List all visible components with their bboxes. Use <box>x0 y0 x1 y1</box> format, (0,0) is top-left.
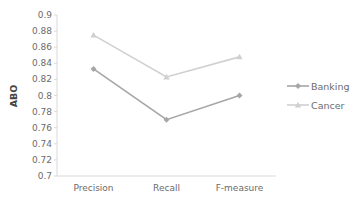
legend-item-cancer: Cancer <box>287 100 345 111</box>
y-tick-label: 0.72 <box>32 155 52 165</box>
legend-label: Cancer <box>311 100 345 111</box>
y-tick-label: 0.7 <box>38 171 52 181</box>
series-line <box>94 35 240 77</box>
y-tick-label: 0.82 <box>32 74 52 84</box>
y-tick-label: 0.78 <box>32 107 52 117</box>
legend-diamond-icon <box>295 83 301 89</box>
triangle-marker-icon <box>90 32 96 38</box>
y-axis-label: ABO <box>8 85 19 108</box>
y-tick-label: 0.74 <box>32 139 52 149</box>
y-tick-label: 0.76 <box>32 123 52 133</box>
y-tick-label: 0.86 <box>32 42 52 52</box>
axes <box>57 15 276 176</box>
legend-label: Banking <box>311 81 350 92</box>
series-lines <box>90 32 242 123</box>
y-tick-label: 0.9 <box>38 10 53 20</box>
legend-item-banking: Banking <box>287 81 350 92</box>
legend: BankingCancer <box>287 81 350 111</box>
series-cancer <box>90 32 242 79</box>
x-category-label: F-measure <box>216 183 264 193</box>
x-category-label: Recall <box>153 183 180 193</box>
y-tick-label: 0.84 <box>32 58 52 68</box>
x-ticks: PrecisionRecallF-measure <box>73 183 263 193</box>
triangle-marker-icon <box>236 54 242 60</box>
x-category-label: Precision <box>73 183 113 193</box>
line-chart: 0.70.720.740.760.780.80.820.840.860.880.… <box>0 0 361 204</box>
y-tick-label: 0.88 <box>32 26 52 36</box>
diamond-marker-icon <box>237 93 243 99</box>
y-tick-label: 0.8 <box>38 91 53 101</box>
y-ticks: 0.70.720.740.760.780.80.820.840.860.880.… <box>32 10 57 181</box>
